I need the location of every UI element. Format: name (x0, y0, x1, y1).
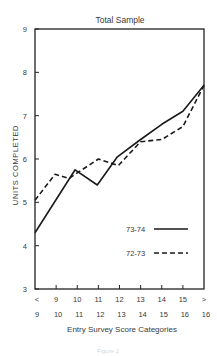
x-tick-label-bottom: 14 (138, 310, 146, 319)
y-tick-label: 7 (23, 112, 27, 121)
x-tick-label: 15 (179, 295, 187, 304)
x-tick-label: 12 (115, 295, 123, 304)
data-series (35, 85, 204, 232)
line-chart: Total Sample 3456789 UNITS COMPLETED <91… (0, 0, 217, 356)
legend-label: 72-73 (126, 249, 145, 258)
x-tick-label: 11 (94, 295, 102, 304)
x-tick-label-bottom: 16 (202, 310, 210, 319)
series-line-73-74 (35, 85, 204, 232)
x-tick-label-bottom: 10 (54, 310, 62, 319)
chart-title: Total Sample (95, 15, 144, 25)
x-tick-label-bottom: 13 (117, 310, 125, 319)
legend: 73-7472-73 (126, 225, 188, 258)
figure-caption: Figure 2 (97, 348, 120, 354)
x-tick-label: 14 (158, 295, 166, 304)
x-tick-label-bottom: 9 (35, 310, 39, 319)
y-tick-label: 4 (23, 242, 27, 251)
x-axis-label: Entry Survey Score Categories (67, 325, 177, 334)
x-tick-label: 9 (54, 295, 58, 304)
y-axis: 3456789 (23, 25, 39, 294)
x-tick-label: > (202, 295, 207, 304)
y-tick-label: 6 (23, 155, 27, 164)
x-tick-label-bottom: 15 (160, 310, 168, 319)
series-line-72-73 (35, 85, 204, 200)
x-tick-label-bottom: 11 (75, 310, 83, 319)
x-tick-label-bottom: 16 (181, 310, 189, 319)
x-axis: <9101112131415>91011121314151616 (35, 285, 210, 319)
y-tick-label: 5 (23, 198, 27, 207)
x-tick-label: 13 (136, 295, 144, 304)
y-axis-label: UNITS COMPLETED (11, 125, 20, 205)
x-tick-label: 10 (73, 295, 81, 304)
legend-label: 73-74 (126, 225, 145, 234)
x-tick-label: < (35, 295, 40, 304)
y-tick-label: 9 (23, 25, 27, 34)
y-tick-label: 8 (23, 68, 27, 77)
y-tick-label: 3 (23, 285, 27, 294)
x-tick-label-bottom: 12 (96, 310, 104, 319)
plot-frame (35, 29, 204, 289)
